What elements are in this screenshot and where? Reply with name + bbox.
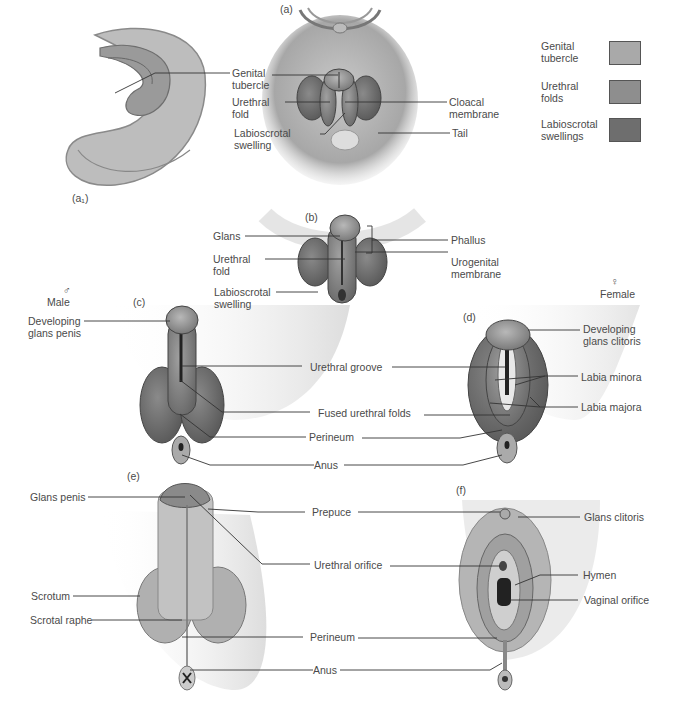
legend-swatch-urethral-folds	[609, 80, 641, 104]
view-f-female-adult	[459, 500, 600, 690]
sagittal-section-a1	[66, 28, 205, 185]
panel-label-c: (c)	[133, 296, 145, 308]
label-developing-glans-clitoris: Developing glans clitoris	[583, 323, 643, 347]
legend-swatch-labioscrotal-swellings	[609, 118, 641, 142]
label-developing-glans-penis: Developing glans penis	[28, 315, 86, 339]
label-hymen: Hymen	[583, 569, 616, 581]
label-b-labioscrotal-swelling: Labioscrotal swelling	[214, 286, 284, 310]
legend-label-urethral-folds: Urethral folds	[541, 80, 596, 104]
panel-label-b: (b)	[305, 211, 318, 223]
label-ef-anus: Anus	[313, 664, 337, 676]
label-scrotum: Scrotum	[31, 590, 70, 602]
panel-label-f: (f)	[456, 484, 466, 496]
label-vaginal-orifice: Vaginal orifice	[584, 594, 649, 606]
female-symbol: ♀	[600, 275, 630, 287]
panel-label-a: (a)	[280, 3, 293, 15]
label-ef-perineum: Perineum	[310, 631, 355, 643]
label-a-cloacal-membrane: Cloacal membrane	[449, 96, 499, 120]
male-symbol: ♂	[52, 284, 82, 296]
label-scrotal-raphe: Scrotal raphe	[30, 614, 92, 626]
label-b-phallus: Phallus	[451, 234, 485, 246]
label-cd-perineum: Perineum	[309, 431, 354, 443]
label-b-glans: Glans	[213, 230, 240, 242]
frontal-view-a	[262, 8, 418, 185]
panel-label-e: (e)	[127, 470, 140, 482]
label-a-urethral-fold: Urethral fold	[232, 96, 280, 120]
legend-swatch-genital-tubercle	[609, 41, 641, 65]
label-prepuce: Prepuce	[312, 506, 351, 518]
label-urethral-orifice: Urethral orifice	[314, 559, 382, 571]
label-glans-penis: Glans penis	[30, 491, 85, 503]
label-labia-majora: Labia majora	[581, 401, 642, 413]
label-a-tail: Tail	[452, 127, 468, 139]
label-a-genital-tubercle: Genital tubercle	[232, 67, 282, 91]
legend-label-labioscrotal-swellings: Labioscrotal swellings	[541, 118, 603, 142]
panel-label-a1: (a₁)	[72, 192, 88, 204]
female-label: Female	[600, 288, 635, 300]
panel-label-d: (d)	[463, 311, 476, 323]
label-glans-clitoris: Glans clitoris	[584, 511, 644, 523]
view-e-male-adult	[100, 484, 266, 691]
label-urethral-groove: Urethral groove	[310, 361, 382, 373]
legend-label-genital-tubercle: Genital tubercle	[541, 40, 596, 64]
label-b-urogenital-membrane: Urogenital membrane	[451, 256, 511, 280]
label-labia-minora: Labia minora	[581, 371, 642, 383]
label-a-labioscrotal-swelling: Labioscrotal swelling	[234, 127, 314, 151]
embryology-illustration	[0, 0, 676, 710]
label-cd-anus: Anus	[314, 459, 338, 471]
male-label: Male	[47, 296, 70, 308]
label-b-urethral-fold: Urethral fold	[213, 253, 263, 277]
label-fused-urethral-folds: Fused urethral folds	[318, 407, 411, 419]
